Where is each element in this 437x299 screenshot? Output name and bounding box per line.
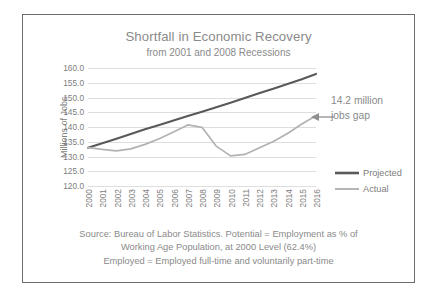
- legend-swatch-actual: [335, 185, 359, 193]
- legend-item-actual[interactable]: Actual: [335, 181, 402, 197]
- chart-footnote: Source: Bureau of Labor Statistics. Pote…: [23, 228, 414, 269]
- x-tick-label: 2000: [84, 189, 94, 207]
- y-tick-label: 135.0: [63, 137, 84, 147]
- chart-figure: Shortfall in Economic Recovery from 2001…: [22, 14, 415, 283]
- chart-title: Shortfall in Economic Recovery: [23, 29, 414, 45]
- x-tick-label: 2015: [298, 189, 308, 207]
- x-tick-label: 2010: [227, 189, 237, 207]
- series-lines: [88, 68, 316, 186]
- legend-label: Projected: [363, 168, 402, 178]
- y-tick-label: 155.0: [63, 78, 84, 88]
- gap-annotation-line2: jobs gap: [331, 108, 423, 123]
- chart-subtitle: from 2001 and 2008 Recessions: [23, 46, 414, 59]
- y-tick-label: 160.0: [63, 63, 84, 73]
- x-tick-label: 2005: [155, 189, 165, 207]
- y-tick-label: 125.0: [63, 166, 84, 176]
- footnote-line3: Employed = Employed full-time and volunt…: [23, 255, 414, 269]
- x-tick-label: 2007: [184, 189, 194, 207]
- chart-legend: ProjectedActual: [335, 165, 402, 197]
- y-tick-label: 140.0: [63, 122, 84, 132]
- legend-label: Actual: [363, 184, 389, 194]
- gridline: [88, 186, 316, 187]
- x-tick-label: 2016: [312, 189, 322, 207]
- x-tick-label: 2012: [255, 189, 265, 207]
- gap-annotation: 14.2 million jobs gap: [331, 93, 423, 123]
- x-tick-label: 2002: [113, 189, 123, 207]
- legend-item-projected[interactable]: Projected: [335, 165, 402, 181]
- footnote-line2: Working Age Population, at 2000 Level (6…: [23, 241, 414, 255]
- legend-swatch-projected: [335, 169, 359, 177]
- x-tick-label: 2008: [198, 189, 208, 207]
- x-tick-label: 2003: [127, 189, 137, 207]
- x-tick-label: 2004: [141, 189, 151, 207]
- y-tick-label: 150.0: [63, 93, 84, 103]
- x-tick-label: 2009: [212, 189, 222, 207]
- chart-title-block: Shortfall in Economic Recovery from 2001…: [23, 29, 414, 59]
- y-tick-label: 145.0: [63, 107, 84, 117]
- plot-area: 160.0155.0150.0145.0140.0135.0130.0125.0…: [88, 68, 316, 186]
- y-tick-label: 120.0: [63, 181, 84, 191]
- gap-annotation-line1: 14.2 million: [331, 93, 423, 108]
- x-tick-label: 2001: [98, 189, 108, 207]
- x-tick-label: 2011: [241, 189, 251, 207]
- x-tick-label: 2013: [269, 189, 279, 207]
- footnote-line1: Source: Bureau of Labor Statistics. Pote…: [23, 228, 414, 242]
- x-tick-label: 2014: [284, 189, 294, 207]
- y-tick-label: 130.0: [63, 152, 84, 162]
- x-tick-label: 2006: [170, 189, 180, 207]
